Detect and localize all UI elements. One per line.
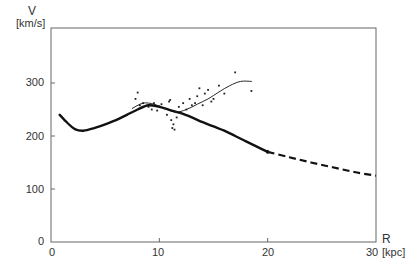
data-point: [213, 98, 215, 100]
data-point: [148, 106, 150, 108]
data-point: [171, 127, 173, 129]
data-point: [204, 93, 206, 95]
plot-series: [60, 72, 376, 176]
data-point: [173, 123, 175, 125]
data-point: [135, 98, 137, 100]
junction-point: [266, 150, 270, 154]
y-axis-unit: [km/s]: [16, 17, 45, 29]
data-point: [207, 89, 209, 91]
data-point: [169, 99, 171, 101]
data-point: [164, 108, 166, 110]
data-point: [161, 103, 163, 105]
data-point: [178, 106, 180, 108]
data-point: [182, 102, 184, 104]
data-point: [170, 119, 172, 121]
plot-border: [51, 28, 376, 242]
data-point: [175, 111, 177, 113]
data-point: [234, 72, 236, 74]
extrapolation-dashed-line: [268, 152, 376, 176]
data-point: [166, 114, 168, 116]
data-point: [137, 92, 139, 94]
data-point: [168, 101, 170, 103]
data-point: [199, 87, 201, 89]
data-point: [156, 110, 158, 112]
x-axis-unit: [kpc]: [382, 246, 405, 258]
y-tick-200: 200: [14, 130, 44, 142]
data-point: [180, 112, 182, 114]
data-point: [251, 90, 253, 92]
x-tick-10: 10: [143, 246, 173, 258]
data-point: [191, 104, 193, 106]
x-tick-0: 0: [37, 246, 67, 258]
data-point: [158, 105, 160, 107]
data-point: [176, 117, 178, 119]
observed-fit-line: [132, 81, 251, 112]
model-curve-line: [60, 105, 268, 152]
x-tick-20: 20: [253, 246, 283, 258]
data-point: [194, 102, 196, 104]
data-point: [153, 102, 155, 104]
data-point: [139, 104, 141, 106]
y-tick-300: 300: [14, 76, 44, 88]
x-tick-30: 30: [366, 246, 378, 258]
data-point: [223, 93, 225, 95]
data-point: [210, 101, 212, 103]
data-point: [196, 95, 198, 97]
data-point: [202, 104, 204, 106]
data-point: [218, 85, 220, 87]
y-axis-label: V: [28, 4, 36, 18]
rotation-curve-chart: [0, 0, 412, 274]
y-tick-100: 100: [14, 183, 44, 195]
data-point: [174, 129, 176, 131]
data-point: [142, 102, 144, 104]
x-axis-label: R: [382, 232, 391, 246]
plot-frame: [51, 28, 376, 242]
data-point: [189, 98, 191, 100]
data-point: [151, 109, 153, 111]
data-point: [186, 109, 188, 111]
